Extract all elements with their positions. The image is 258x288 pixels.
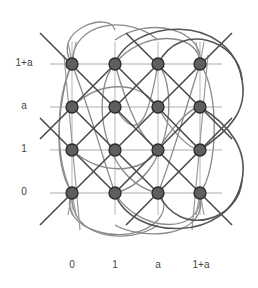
node-1+a-1+a bbox=[194, 58, 206, 70]
y-label-a: a bbox=[4, 100, 44, 111]
y-label-1: 1 bbox=[4, 143, 44, 154]
x-label-0: 0 bbox=[52, 259, 92, 270]
node-a-0 bbox=[152, 187, 164, 199]
y-label-0: 0 bbox=[4, 186, 44, 197]
node-a-1+a bbox=[152, 58, 164, 70]
node-1+a-1 bbox=[194, 144, 206, 156]
node-1+a-0 bbox=[194, 187, 206, 199]
node-1-1 bbox=[109, 144, 121, 156]
node-0-0 bbox=[66, 187, 78, 199]
x-label-a: a bbox=[138, 259, 178, 270]
x-label-1+a: 1+a bbox=[181, 259, 221, 270]
node-a-a bbox=[152, 101, 164, 113]
x-label-1: 1 bbox=[95, 259, 135, 270]
node-0-1 bbox=[66, 144, 78, 156]
node-1-1+a bbox=[109, 58, 121, 70]
node-0-1+a bbox=[66, 58, 78, 70]
node-1-0 bbox=[109, 187, 121, 199]
y-label-1+a: 1+a bbox=[4, 57, 44, 68]
node-1+a-a bbox=[194, 101, 206, 113]
node-a-1 bbox=[152, 144, 164, 156]
node-1-a bbox=[109, 101, 121, 113]
node-0-a bbox=[66, 101, 78, 113]
